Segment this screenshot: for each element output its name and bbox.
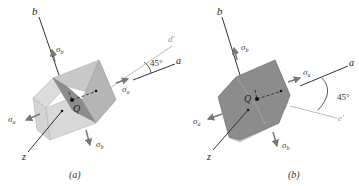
angle-arc [318,78,328,110]
cube [218,60,290,142]
sigma-a-arrow-left [208,114,222,119]
origin-point [70,98,74,102]
angle-label: 45° [337,92,350,102]
origin-label: Q [244,93,252,104]
stress-element-diagram: b d' a 45° Q z [0,0,359,186]
sigma-b-arrow-down [273,132,277,146]
cube [33,60,116,140]
sigma-a-label-right: σa [303,67,310,78]
caption-a: (a) [69,169,81,181]
sigma-b-label-bottom: σb [96,139,103,150]
z-axis-label: z [21,151,26,162]
caption-b: (b) [288,169,300,181]
origin-point [255,97,259,101]
d-prime-label: d' [168,34,176,44]
origin-label: Q [73,103,81,114]
sigma-a-label-left: σa [193,116,200,127]
b-axis-label: b [32,5,38,17]
e-prime-guide [290,106,337,118]
b-axis-line [222,17,240,75]
a-axis-label: a [349,57,354,68]
e-prime-label: e' [338,113,345,123]
sigma-b-label-top: σb [56,44,63,55]
sigma-a-arrow-right [288,78,300,82]
face-center-a [280,90,283,93]
sigma-b-arrow-down [86,130,90,145]
b-axis-label: b [217,5,223,17]
sigma-a-label-left: σa [8,114,15,125]
a-axis-label: a [176,55,181,66]
sigma-a-label-right: σa [122,84,129,95]
figure-a: b d' a 45° Q z [8,5,181,181]
figure-b: b e' a 45° Q z σ [193,5,354,181]
sigma-b-label-top: σb [241,42,248,53]
face-center-a [95,90,98,93]
angle-label: 45° [150,58,163,68]
sigma-b-label-bottom: σb [282,140,289,151]
z-axis-label: z [206,151,211,162]
